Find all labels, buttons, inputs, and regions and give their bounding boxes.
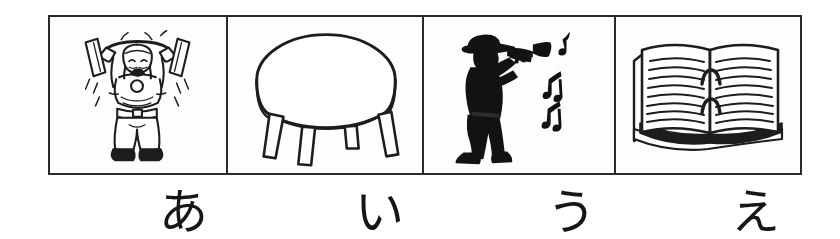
kana-label-a: あ — [159, 188, 208, 237]
kana-caption-cell-4: え — [614, 175, 798, 239]
trumpet-player-illustration — [424, 17, 614, 173]
picture-cell-4[interactable] — [616, 17, 800, 173]
kana-caption-cell-1: あ — [48, 175, 226, 239]
kana-caption-cell-2: い — [226, 175, 422, 239]
round-stool-illustration — [228, 17, 422, 173]
picture-card-strip — [48, 15, 802, 175]
open-book-illustration — [616, 17, 800, 173]
picture-cell-1[interactable] — [50, 17, 228, 173]
kana-label-u: う — [547, 188, 596, 237]
kana-caption-cell-3: う — [422, 175, 614, 239]
worksheet-page: あ い う え — [0, 0, 840, 239]
kana-label-i: い — [355, 188, 404, 237]
picture-cell-3[interactable] — [424, 17, 616, 173]
weightlifter-illustration — [50, 17, 226, 173]
kana-caption-row: あ い う え — [48, 175, 802, 239]
kana-label-e: え — [731, 188, 780, 237]
picture-cell-2[interactable] — [228, 17, 424, 173]
